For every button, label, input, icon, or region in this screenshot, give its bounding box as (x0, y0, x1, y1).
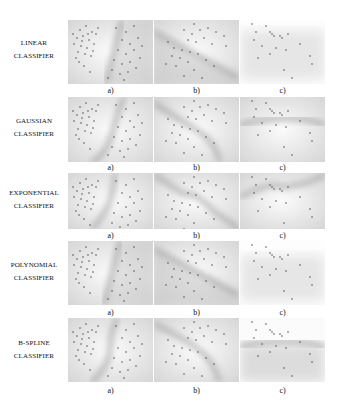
panel-gaussian-c (240, 97, 325, 162)
row-label-polynomial: POLYNOMIAL CLASSIFIER (0, 259, 68, 285)
panel-exponential-a (68, 173, 153, 229)
scatter-plot (240, 173, 325, 229)
scatter-plot (240, 318, 325, 382)
scatter-plot (68, 318, 153, 382)
subfigure-label: b) (154, 163, 239, 172)
row-label-line1: LINEAR (0, 37, 68, 50)
subfigure-label: c) (240, 231, 325, 240)
panel-gaussian-a (68, 97, 153, 162)
subfigure-label: c) (240, 86, 325, 95)
subfigure-label: a) (68, 231, 153, 240)
subfigure-label: b) (154, 86, 239, 95)
subfigure-label: c) (240, 386, 325, 395)
row-label-line2: CLASSIFIER (0, 272, 68, 285)
panel-polynomial-b (154, 241, 239, 305)
panel-polynomial-a (68, 241, 153, 305)
panel-polynomial-c (240, 241, 325, 305)
subfigure-label: a) (68, 163, 153, 172)
subfigure-label: c) (240, 308, 325, 317)
row-label-line2: CLASSIFIER (0, 128, 68, 141)
subfigure-label: a) (68, 308, 153, 317)
subfigure-label: c) (240, 163, 325, 172)
scatter-plot (154, 318, 239, 382)
row-label-gaussian: GAUSSIAN CLASSIFIER (0, 115, 68, 141)
panel-gaussian-b (154, 97, 239, 162)
scatter-plot (68, 20, 153, 84)
scatter-plot (240, 20, 325, 84)
scatter-plot (68, 241, 153, 305)
scatter-plot (240, 241, 325, 305)
row-label-line1: EXPONENTIAL (0, 187, 68, 200)
panel-bspline-c (240, 318, 325, 382)
subfigure-label: a) (68, 386, 153, 395)
panel-exponential-c (240, 173, 325, 229)
row-label-line2: CLASSIFIER (0, 350, 68, 363)
subfigure-label: b) (154, 308, 239, 317)
row-label-bspline: B-SPLINE CLASSIFIER (0, 337, 68, 363)
row-label-linear: LINEAR CLASSIFIER (0, 37, 68, 63)
panel-exponential-b (154, 173, 239, 229)
panel-bspline-a (68, 318, 153, 382)
row-label-line2: CLASSIFIER (0, 50, 68, 63)
scatter-plot (154, 173, 239, 229)
row-label-exponential: EXPONENTIAL CLASSIFIER (0, 187, 68, 213)
row-label-line1: GAUSSIAN (0, 115, 68, 128)
panel-bspline-b (154, 318, 239, 382)
scatter-plot (154, 20, 239, 84)
row-label-line1: POLYNOMIAL (0, 259, 68, 272)
scatter-plot (240, 97, 325, 162)
subfigure-label: a) (68, 86, 153, 95)
row-label-line1: B-SPLINE (0, 337, 68, 350)
scatter-plot (154, 97, 239, 162)
subfigure-label: b) (154, 386, 239, 395)
panel-linear-b (154, 20, 239, 84)
row-label-line2: CLASSIFIER (0, 200, 68, 213)
scatter-plot (68, 173, 153, 229)
subfigure-label: b) (154, 231, 239, 240)
scatter-plot (154, 241, 239, 305)
panel-linear-a (68, 20, 153, 84)
panel-linear-c (240, 20, 325, 84)
scatter-plot (68, 97, 153, 162)
